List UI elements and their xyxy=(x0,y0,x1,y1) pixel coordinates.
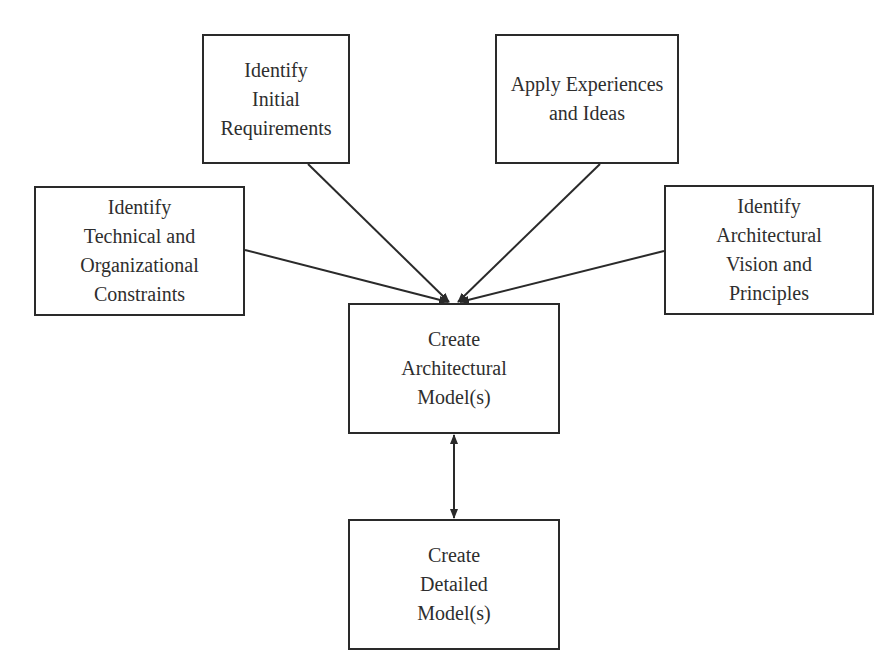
node-create-detailed-models: Create Detailed Model(s) xyxy=(348,519,560,650)
arrow-constraints-to-architectural xyxy=(245,250,448,302)
arrow-vision-to-architectural xyxy=(460,251,664,302)
arrow-requirements-to-architectural xyxy=(308,164,449,302)
node-apply-experiences-and-ideas: Apply Experiences and Ideas xyxy=(495,34,679,164)
node-identify-initial-requirements: Identify Initial Requirements xyxy=(202,34,350,164)
node-label: Identify Initial Requirements xyxy=(220,56,331,143)
node-identify-technical-constraints: Identify Technical and Organizational Co… xyxy=(34,186,245,316)
node-label: Identify Architectural Vision and Princi… xyxy=(716,192,822,308)
node-identify-architectural-vision: Identify Architectural Vision and Princi… xyxy=(664,185,874,315)
node-create-architectural-models: Create Architectural Model(s) xyxy=(348,303,560,434)
node-label: Create Detailed Model(s) xyxy=(417,541,490,628)
arrow-experiences-to-architectural xyxy=(458,164,600,302)
node-label: Identify Technical and Organizational Co… xyxy=(80,193,198,309)
node-label: Create Architectural Model(s) xyxy=(401,325,507,412)
node-label: Apply Experiences and Ideas xyxy=(511,70,664,128)
